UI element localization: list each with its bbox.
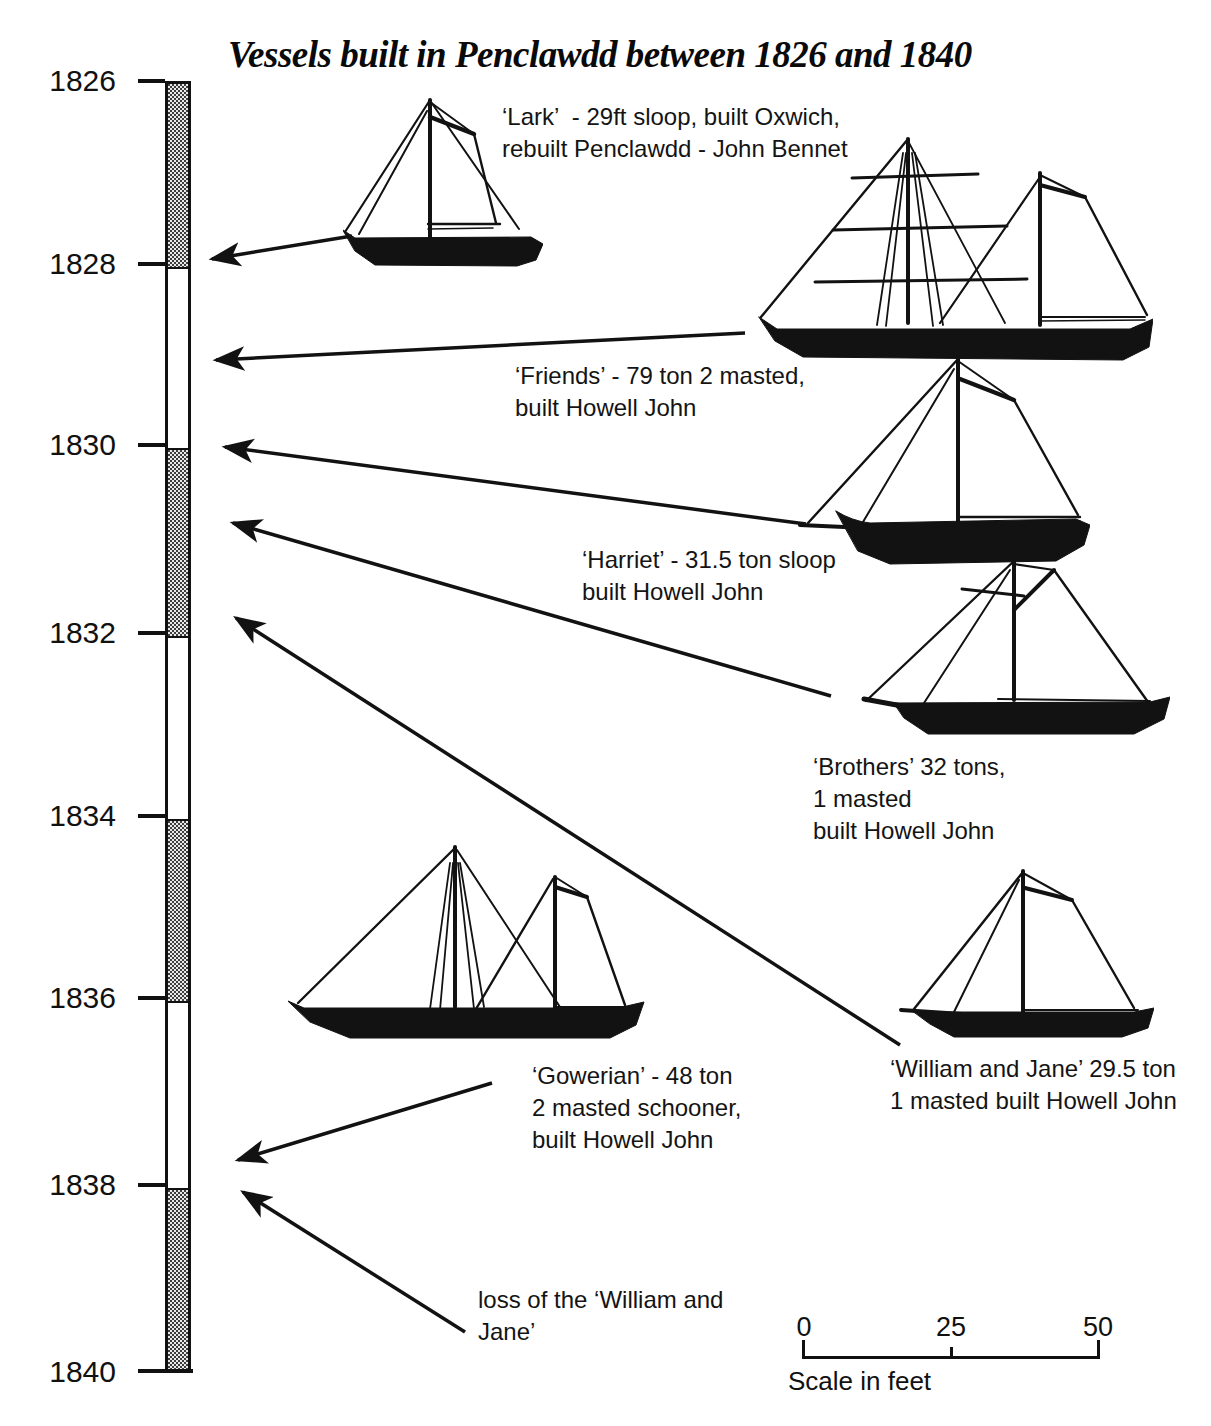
loss-arrow (243, 1192, 465, 1332)
arrow-overlay (0, 0, 1211, 1426)
scale-bar-tick-25 (950, 1347, 953, 1359)
figure-canvas: Vessels built in Penclawdd between 1826 … (0, 0, 1211, 1426)
scale-bar-caption: Scale in feet (788, 1366, 931, 1397)
harriet-arrow (225, 447, 806, 524)
william-and-jane-arrow (236, 618, 900, 1045)
scale-bar-tick-50 (1097, 1340, 1100, 1359)
scale-bar-label-50: 50 (1078, 1314, 1118, 1341)
friends-arrow (216, 333, 745, 360)
gowerian-arrow (238, 1083, 492, 1160)
lark-arrow (212, 236, 352, 259)
brothers-arrow (233, 523, 831, 696)
scale-bar-tick-0 (802, 1340, 805, 1359)
scale-bar-label-0: 0 (789, 1314, 819, 1341)
scale-bar-label-25: 25 (931, 1314, 971, 1341)
